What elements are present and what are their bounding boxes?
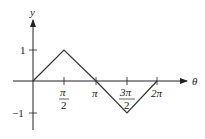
x-tick-label-2pi: 2π bbox=[151, 87, 163, 99]
x-tick-label-3pi-half-den: 2 bbox=[124, 99, 130, 111]
x-tick-label-3pi-half-num: 3π bbox=[119, 86, 132, 98]
y-tick-label-neg1: −1 bbox=[12, 107, 24, 119]
x-tick-label-pi-half-den: 2 bbox=[61, 99, 67, 111]
x-tick-label-pi: π bbox=[92, 87, 98, 99]
y-tick-label-1: 1 bbox=[20, 44, 26, 56]
x-tick-label-pi-half-num: π bbox=[60, 86, 66, 98]
chart: y θ 1 −1 π 2 π 3π 2 2π bbox=[0, 0, 205, 139]
x-axis-label: θ bbox=[192, 75, 198, 87]
y-axis-label: y bbox=[29, 6, 35, 18]
